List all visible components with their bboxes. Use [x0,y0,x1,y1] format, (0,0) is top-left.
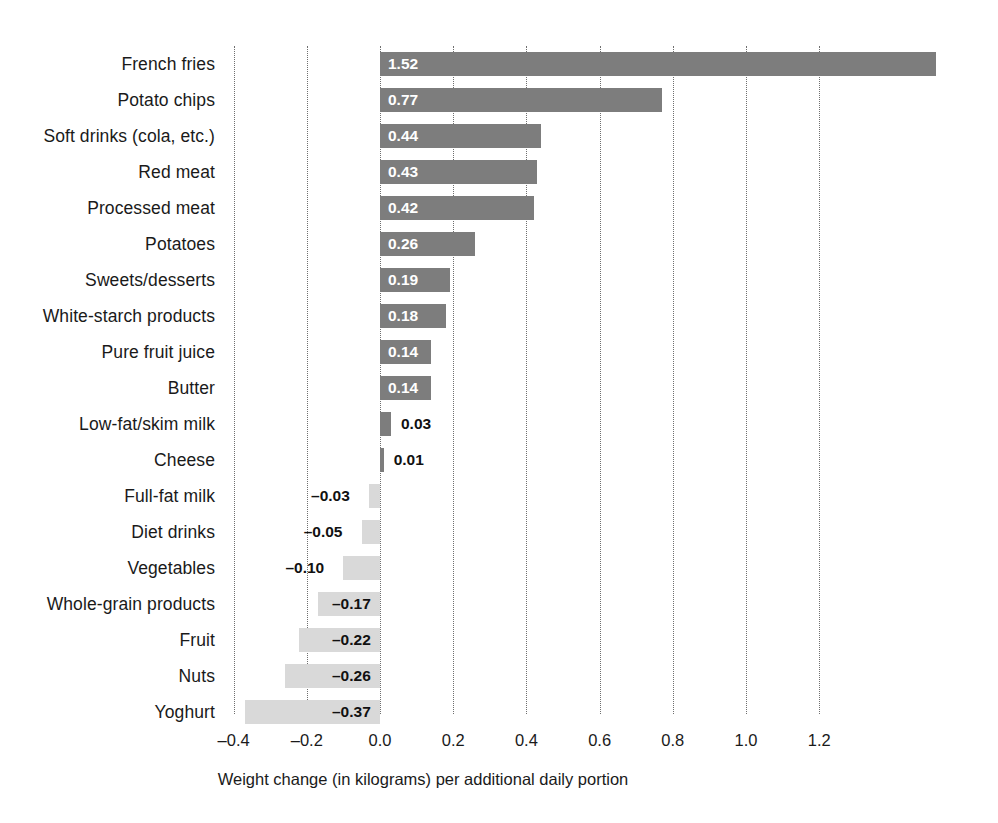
bar-negative [369,484,380,508]
x-tick-label: 0.0 [369,731,392,750]
bar-row: Yoghurt–0.37 [0,694,998,730]
bar-row: Fruit–0.22 [0,622,998,658]
bar-value-label: –0.22 [332,631,371,649]
bar-row: Potatoes0.26 [0,226,998,262]
x-tick-label: 0.2 [442,731,465,750]
x-tick-label: –0.2 [291,731,323,750]
category-label: White-starch products [43,306,215,327]
bar-negative [343,556,380,580]
bar-value-label: 0.19 [388,271,418,289]
bar-value-label: 0.77 [388,91,418,109]
bar-value-label: –0.37 [332,703,371,721]
bar-value-label: –0.26 [332,667,371,685]
bar-value-label: 0.14 [388,379,418,397]
category-label: Sweets/desserts [85,270,215,291]
bar-row: Soft drinks (cola, etc.)0.44 [0,118,998,154]
bar-value-label: 0.44 [388,127,418,145]
bar-positive [380,52,936,76]
bar-row: Butter0.14 [0,370,998,406]
bar-value-label: –0.17 [332,595,371,613]
category-label: Soft drinks (cola, etc.) [43,126,215,147]
category-label: Yoghurt [155,702,215,723]
category-label: Cheese [154,450,215,471]
bar-row: Cheese0.01 [0,442,998,478]
bar-row: Red meat0.43 [0,154,998,190]
plot-area: French fries1.52Potato chips0.77Soft dri… [0,0,998,823]
category-label: Potatoes [145,234,215,255]
category-label: Nuts [179,666,215,687]
bar-row: Whole-grain products–0.17 [0,586,998,622]
bar-row: French fries1.52 [0,46,998,82]
x-tick-label: 0.4 [515,731,538,750]
bar-row: Low-fat/skim milk0.03 [0,406,998,442]
category-label: Vegetables [127,558,215,579]
bar-value-label: 0.03 [401,415,431,433]
category-label: Butter [168,378,215,399]
x-tick-label: 1.0 [735,731,758,750]
bar-value-label: –0.03 [311,487,350,505]
bar-positive [380,448,384,472]
bar-row: Processed meat0.42 [0,190,998,226]
bar-value-label: 0.26 [388,235,418,253]
bar-row: Sweets/desserts0.19 [0,262,998,298]
x-axis-title-text: Weight change (in kilograms) per additio… [218,770,629,789]
x-axis-title: Weight change (in kilograms) per additio… [0,770,998,789]
bar-value-label: –0.10 [285,559,324,577]
bar-value-label: 0.42 [388,199,418,217]
bar-value-label: 0.14 [388,343,418,361]
category-label: French fries [121,54,215,75]
bar-row: White-starch products0.18 [0,298,998,334]
bar-value-label: –0.05 [304,523,343,541]
category-label: Pure fruit juice [102,342,215,363]
category-label: Diet drinks [131,522,215,543]
category-label: Whole-grain products [47,594,215,615]
category-label: Potato chips [117,90,215,111]
bar-value-label: 0.18 [388,307,418,325]
bar-value-label: 1.52 [388,55,418,73]
category-label: Red meat [138,162,215,183]
x-tick-label: 1.2 [808,731,831,750]
category-label: Full-fat milk [124,486,215,507]
x-tick-label: 0.8 [661,731,684,750]
bar-negative [362,520,380,544]
category-label: Low-fat/skim milk [79,414,215,435]
bar-row: Full-fat milk–0.03 [0,478,998,514]
bar-positive [380,88,662,112]
x-tick-label: 0.6 [588,731,611,750]
x-tick-label: –0.4 [218,731,250,750]
bar-row: Nuts–0.26 [0,658,998,694]
bar-positive [380,412,391,436]
category-label: Processed meat [87,198,215,219]
bar-row: Pure fruit juice0.14 [0,334,998,370]
bar-row: Diet drinks–0.05 [0,514,998,550]
category-label: Fruit [180,630,216,651]
bar-value-label: 0.01 [394,451,424,469]
bar-row: Potato chips0.77 [0,82,998,118]
bar-row: Vegetables–0.10 [0,550,998,586]
chart-figure: French fries1.52Potato chips0.77Soft dri… [0,0,998,823]
bar-value-label: 0.43 [388,163,418,181]
